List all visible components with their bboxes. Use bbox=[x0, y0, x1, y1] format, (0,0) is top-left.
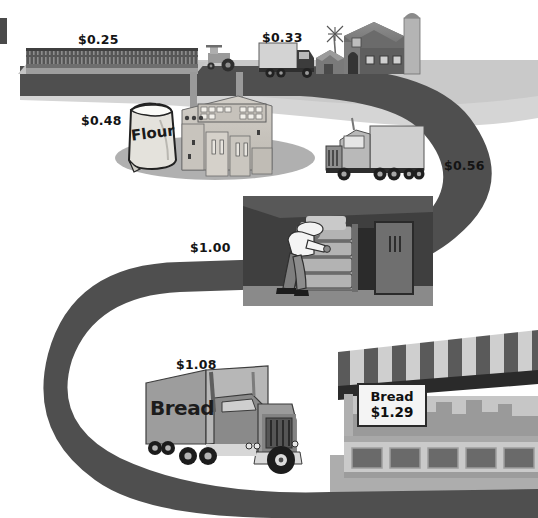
price-label-mill-shipping: $0.56 bbox=[444, 158, 485, 173]
supply-chain-illustration bbox=[0, 0, 538, 518]
price-label-bread-delivery: $1.08 bbox=[176, 357, 217, 372]
store-sign-product: Bread bbox=[362, 390, 422, 405]
price-label-bakery-warehouse: $1.00 bbox=[190, 240, 231, 255]
infographic-canvas: $0.25 $0.33 $0.48 $0.56 $1.00 $1.08 Flou… bbox=[0, 0, 538, 518]
mill-shipping-truck bbox=[326, 118, 425, 181]
warehouse-panel bbox=[243, 196, 433, 306]
farm-buildings bbox=[316, 13, 420, 74]
store-sign-price: $1.29 bbox=[362, 405, 422, 420]
price-label-farm-transport: $0.33 bbox=[262, 30, 303, 45]
bread-delivery-truck bbox=[146, 366, 302, 474]
price-label-wheat-field: $0.25 bbox=[78, 32, 119, 47]
bread-truck-label: Bread bbox=[150, 396, 214, 420]
wheat-field bbox=[18, 48, 206, 74]
price-label-flour-mill: $0.48 bbox=[81, 113, 122, 128]
